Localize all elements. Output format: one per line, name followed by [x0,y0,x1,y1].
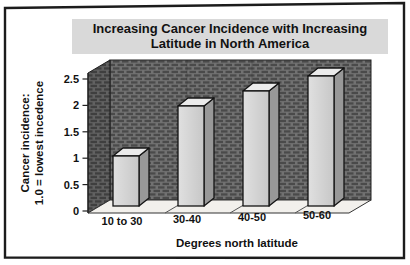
y-tick-label: 0.5 [64,179,79,191]
y-tick-label: 0 [73,205,79,217]
bar-side-face [334,68,344,206]
bar-30-40 [178,98,214,206]
left-wall-shade [88,60,110,213]
x-tick-label: 30-40 [173,213,201,225]
bar-side-face [139,148,149,206]
bar-side-face [269,83,279,206]
x-tick-label: 10 to 30 [102,215,143,227]
figure-page: Increasing Cancer Incidence with Increas… [0,0,410,265]
bar-front-face [243,91,269,206]
bar-front-face [178,106,204,206]
y-axis-title-line2: 1.0 = lowest incedence [33,81,45,205]
bar-40-50 [243,83,279,206]
bar-side-face [204,98,214,206]
y-tick-label: 2 [73,99,79,111]
y-tick-label: 1.5 [64,126,79,138]
y-tick-label: 1 [73,152,79,164]
x-tick-label: 40-50 [238,211,266,223]
y-axis-title-line1: Cancer incidence: [19,93,31,192]
bar-10 to 30 [113,148,149,206]
x-axis-title: Degrees north latitude [176,237,298,249]
bar-front-face [308,76,334,206]
bar-50-60 [308,68,344,206]
chart-title-line2: Latitude in North America [151,36,310,51]
bar-front-face [113,156,139,206]
chart-title-line1: Increasing Cancer Incidence with Increas… [93,21,368,36]
cancer-latitude-3d-bar-chart: Increasing Cancer Incidence with Increas… [0,0,410,265]
y-tick-label: 2.5 [64,73,79,85]
x-tick-label: 50-60 [303,209,331,221]
